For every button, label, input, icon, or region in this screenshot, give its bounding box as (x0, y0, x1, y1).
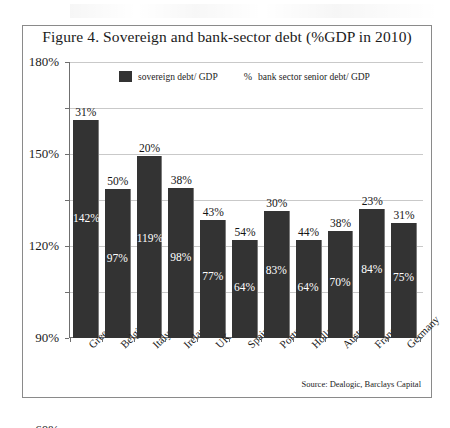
y-axis-tick: 0% (65, 338, 69, 339)
x-axis-tick (229, 338, 230, 342)
bank-sector-debt-value-label: 31% (70, 106, 102, 118)
x-axis-tick (356, 338, 357, 342)
x-axis-tick (388, 338, 389, 342)
y-axis-tick: 150% (65, 108, 69, 109)
plot-area: 0%30%60%90%120%150%180% 142%31%Greece97%… (69, 62, 419, 338)
sovereign-debt-value-label: 119% (137, 232, 162, 244)
bar-holland: 64% (296, 240, 322, 338)
bar-group: 83%30%Portugal (261, 62, 293, 338)
figure-title: Figure 4. Sovereign and bank-sector debt… (23, 28, 431, 46)
sovereign-debt-value-label: 77% (200, 270, 225, 282)
sovereign-debt-value-label: 70% (328, 276, 353, 288)
bar-austria: 70% (328, 231, 354, 338)
bar-group: 98%38%Ireland (165, 62, 197, 338)
y-axis-tick: 180% (65, 62, 69, 63)
bar-group: 75%31%Germany (388, 62, 420, 338)
bank-sector-debt-value-label: 20% (134, 142, 166, 154)
bar-greece: 142% (73, 120, 99, 338)
y-axis-tick: 60% (65, 246, 69, 247)
bar-group: 97%50%Belgium (102, 62, 134, 338)
bar-group: 64%54%Spain (229, 62, 261, 338)
x-axis-tick (102, 338, 103, 342)
bar-germany: 75% (391, 223, 417, 338)
y-axis-tick: 90% (65, 200, 69, 201)
bar-group: 70%38%Austria (325, 62, 357, 338)
bank-sector-debt-value-label: 30% (261, 197, 293, 209)
bar-ireland: 98% (168, 188, 194, 338)
y-axis-tick-label: 60% (35, 422, 59, 428)
sovereign-debt-value-label: 142% (73, 212, 98, 224)
y-axis-tick-label: 150% (29, 146, 59, 162)
sovereign-debt-value-label: 97% (105, 252, 130, 264)
sovereign-debt-value-label: 83% (264, 264, 289, 276)
bank-sector-debt-value-label: 43% (197, 206, 229, 218)
y-axis-tick-label: 120% (29, 238, 59, 254)
bar-portugal: 83% (264, 211, 290, 338)
bar-group: 64%44%Holland (293, 62, 325, 338)
bar-series: 142%31%Greece97%50%Belgium119%20%Italy98… (70, 62, 419, 338)
sovereign-debt-value-label: 84% (359, 263, 384, 275)
y-axis-tick-label: 90% (35, 330, 59, 346)
sovereign-debt-value-label: 64% (232, 281, 257, 293)
bar-italy: 119% (137, 156, 163, 338)
y-axis-tick: 120% (65, 154, 69, 155)
bank-sector-debt-value-label: 50% (102, 175, 134, 187)
sovereign-debt-value-label: 98% (168, 251, 193, 263)
bank-sector-debt-value-label: 31% (388, 209, 420, 221)
bank-sector-debt-value-label: 38% (165, 174, 197, 186)
x-axis-tick (165, 338, 166, 342)
bank-sector-debt-value-label: 44% (293, 226, 325, 238)
x-axis-tick (261, 338, 262, 342)
y-axis-tick: 30% (65, 292, 69, 293)
bar-group: 142%31%Greece (70, 62, 102, 338)
sovereign-debt-value-label: 64% (296, 281, 321, 293)
bar-uk: 77% (200, 220, 226, 338)
bar-group: 77%43%UK (197, 62, 229, 338)
x-axis-tick (420, 338, 421, 342)
x-axis-tick (293, 338, 294, 342)
bar-group: 84%23%France (356, 62, 388, 338)
y-axis-tick-label: 180% (29, 54, 59, 70)
figure-container: Figure 4. Sovereign and bank-sector debt… (22, 25, 432, 398)
bar-group: 119%20%Italy (134, 62, 166, 338)
bank-sector-debt-value-label: 23% (356, 195, 388, 207)
bank-sector-debt-value-label: 38% (325, 217, 357, 229)
bar-france: 84% (359, 209, 385, 338)
x-axis-tick (70, 338, 71, 342)
bank-sector-debt-value-label: 54% (229, 226, 261, 238)
x-axis-tick (134, 338, 135, 342)
x-axis-tick (325, 338, 326, 342)
source-note: Source: Dealogic, Barclays Capital (302, 379, 421, 389)
bar-spain: 64% (232, 240, 258, 338)
bar-belgium: 97% (105, 189, 131, 338)
x-axis-tick (197, 338, 198, 342)
scan-artifact (70, 4, 440, 18)
sovereign-debt-value-label: 75% (391, 271, 416, 283)
